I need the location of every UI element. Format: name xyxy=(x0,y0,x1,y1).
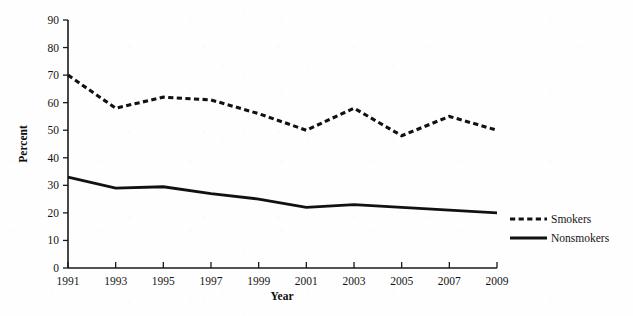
x-tick-label: 1997 xyxy=(200,275,223,287)
y-tick-label: 30 xyxy=(48,179,60,191)
y-tick-label: 80 xyxy=(48,42,60,54)
x-tick-label: 1991 xyxy=(57,275,80,287)
y-axis-ticks: 0102030405060708090 xyxy=(48,14,69,274)
y-tick-label: 60 xyxy=(48,97,60,109)
line-chart: 0102030405060708090 19911993199519971999… xyxy=(0,0,633,316)
x-tick-label: 2007 xyxy=(438,275,461,287)
y-tick-label: 20 xyxy=(48,207,60,219)
x-tick-label: 2003 xyxy=(343,275,366,287)
chart-page: 0102030405060708090 19911993199519971999… xyxy=(0,0,633,316)
series-line-nonsmokers xyxy=(68,177,497,213)
y-tick-label: 50 xyxy=(48,124,60,136)
legend-label-smokers: Smokers xyxy=(551,213,592,225)
x-axis-ticks: 1991199319951997199920012003200520072009 xyxy=(57,262,509,287)
legend: Smokers Nonsmokers xyxy=(510,213,610,244)
y-tick-label: 70 xyxy=(48,69,60,81)
y-axis-title: Percent xyxy=(17,125,29,163)
x-tick-label: 1999 xyxy=(247,275,270,287)
x-tick-label: 1993 xyxy=(104,275,127,287)
x-tick-label: 2009 xyxy=(486,275,509,287)
y-tick-label: 90 xyxy=(48,14,60,26)
axis-group xyxy=(68,20,497,268)
legend-label-nonsmokers: Nonsmokers xyxy=(551,232,610,244)
y-tick-label: 40 xyxy=(48,152,60,164)
x-axis-title: Year xyxy=(271,290,294,302)
x-tick-label: 2005 xyxy=(390,275,413,287)
y-tick-label: 0 xyxy=(53,262,59,274)
series-line-smokers xyxy=(68,75,497,136)
x-tick-label: 2001 xyxy=(295,275,318,287)
y-tick-label: 10 xyxy=(48,234,60,246)
x-tick-label: 1995 xyxy=(152,275,175,287)
